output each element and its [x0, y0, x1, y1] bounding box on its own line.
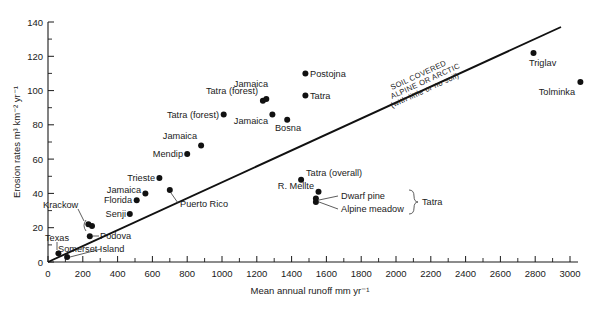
label-tolminka: Tolminka: [539, 87, 576, 97]
soil-boundary-line: [48, 27, 561, 262]
data-point-trieste[interactable]: [156, 175, 162, 181]
label-texas: Texas: [45, 233, 69, 243]
region-annotation-group: SOIL COVERED ALPINE OR ARCTIC (with litt…: [389, 58, 461, 109]
label-jamaica-2: Jamaica: [163, 131, 198, 141]
y-tick-label-120: 120: [27, 51, 43, 62]
label-dwarf-pine: Dwarf pine: [341, 191, 385, 201]
data-point-jamaica-3[interactable]: [269, 112, 275, 118]
data-point-puerto-rico[interactable]: [167, 187, 173, 193]
tatra-group-bracket: [409, 190, 418, 214]
x-tick-label-1400: 1400: [281, 268, 302, 279]
x-axis-tick-labels: 0 200 400 600 800 1000 1200 1400 1600 18…: [45, 268, 580, 279]
y-tick-label-80: 80: [32, 119, 43, 130]
data-point-jamaica-1[interactable]: [142, 190, 148, 196]
label-jamaica-3: Jamaica: [234, 116, 269, 126]
label-somerset-island: Somerset Island: [58, 244, 124, 254]
x-tick-label-2600: 2600: [490, 268, 511, 279]
data-points-group: [55, 50, 583, 260]
data-point-postojna[interactable]: [302, 70, 308, 76]
label-krackow: Krackow: [43, 200, 79, 210]
label-r-mellte: R. Mellte: [278, 181, 314, 191]
data-point-krackow-b[interactable]: [89, 223, 95, 229]
data-point-tolminka[interactable]: [577, 79, 583, 85]
y-tick-label-20: 20: [32, 222, 43, 233]
alpine-meadow-leader: [319, 202, 338, 209]
label-florida: Florida: [104, 195, 133, 205]
label-puerto-rico: Puerto Rico: [180, 199, 228, 209]
data-point-senji[interactable]: [127, 211, 133, 217]
x-axis-minor-ticks: [65, 258, 552, 262]
label-senji: Senji: [106, 209, 126, 219]
x-tick-label-1200: 1200: [246, 268, 267, 279]
data-point-mendip[interactable]: [184, 151, 190, 157]
x-tick-label-0: 0: [45, 268, 50, 279]
label-triglav: Triglav: [529, 58, 557, 68]
x-axis-title: Mean annual runoff mm yr⁻¹: [251, 285, 370, 296]
data-point-florida[interactable]: [134, 197, 140, 203]
x-tick-label-200: 200: [75, 268, 91, 279]
label-mendip: Mendip: [153, 149, 183, 159]
puerto-rico-leader: [171, 193, 178, 203]
data-point-tatra-forest-1[interactable]: [221, 112, 227, 118]
x-tick-label-1000: 1000: [211, 268, 232, 279]
label-tatra-forest-1: Tatra (forest): [167, 110, 219, 120]
x-tick-label-2800: 2800: [525, 268, 546, 279]
data-point-bosna[interactable]: [284, 117, 290, 123]
label-jamaica-1: Jamaica: [107, 185, 142, 195]
y-axis-tick-labels: 0 20 40 60 80 100 120 140: [27, 17, 43, 268]
x-tick-label-1800: 1800: [351, 268, 372, 279]
y-axis-title: Erosion rates m³ km⁻² yr⁻¹: [11, 86, 22, 198]
x-tick-label-3000: 3000: [559, 268, 580, 279]
y-tick-label-60: 60: [32, 154, 43, 165]
y-tick-label-0: 0: [38, 257, 43, 268]
x-tick-label-2200: 2200: [420, 268, 441, 279]
y-tick-label-140: 140: [27, 17, 43, 28]
data-point-somerset-island[interactable]: [64, 254, 70, 260]
data-point-podova[interactable]: [87, 233, 93, 239]
data-point-jamaica-2[interactable]: [198, 142, 204, 148]
y-tick-label-100: 100: [27, 85, 43, 96]
krackow-leader: [78, 209, 84, 221]
data-point-tatra[interactable]: [302, 93, 308, 99]
x-tick-label-2400: 2400: [455, 268, 476, 279]
label-podova: Podova: [100, 231, 132, 241]
dwarf-pine-leader: [319, 196, 338, 200]
y-tick-label-40: 40: [32, 188, 43, 199]
x-tick-label-2000: 2000: [385, 268, 406, 279]
data-point-r-mellte[interactable]: [316, 189, 322, 195]
label-alpine-meadow: Alpine meadow: [341, 204, 404, 214]
label-tatra-group: Tatra: [422, 197, 443, 207]
x-tick-label-600: 600: [144, 268, 160, 279]
data-point-triglav[interactable]: [531, 50, 537, 56]
x-tick-label-1600: 1600: [316, 268, 337, 279]
label-bosna: Bosna: [275, 123, 302, 133]
label-tatra-overall: Tatra (overall): [306, 168, 362, 178]
label-postojna: Postojna: [310, 69, 347, 79]
data-point-tatra-forest-3[interactable]: [263, 96, 269, 102]
label-tatra: Tatra: [310, 91, 331, 101]
x-tick-label-800: 800: [179, 268, 195, 279]
x-tick-label-400: 400: [110, 268, 126, 279]
label-jamaica-top: Jamaica: [234, 79, 269, 89]
data-point-alpine-meadow[interactable]: [313, 199, 319, 205]
plot-canvas: 0 20 40 60 80 100 120 140: [0, 0, 592, 318]
label-trieste: Trieste: [127, 173, 155, 183]
y-axis-minor-ticks: [48, 39, 52, 245]
erosion-runoff-scatter-figure: 0 20 40 60 80 100 120 140: [0, 0, 592, 318]
point-labels-group: Texas Somerset Island Podova Krackow Sen…: [43, 58, 576, 254]
